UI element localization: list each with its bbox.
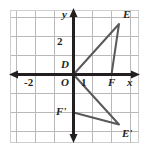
point-label-D: D xyxy=(61,59,69,70)
tick-label-y-2: 2 xyxy=(57,36,63,47)
tick-label-x-neg2: -2 xyxy=(24,77,33,88)
tick-label-x-1: 1 xyxy=(81,77,87,88)
x-axis-label: x xyxy=(127,77,133,88)
point-label-F: F xyxy=(108,77,115,88)
point-label-E: E xyxy=(123,9,130,20)
y-axis-label: y xyxy=(62,9,67,20)
point-label-E-prime: E' xyxy=(122,128,132,139)
coordinate-grid-figure: y x 2 -2 1 O D E F F' E' xyxy=(0,0,149,149)
origin-label: O xyxy=(61,77,69,88)
point-label-F-prime: F' xyxy=(56,106,66,117)
